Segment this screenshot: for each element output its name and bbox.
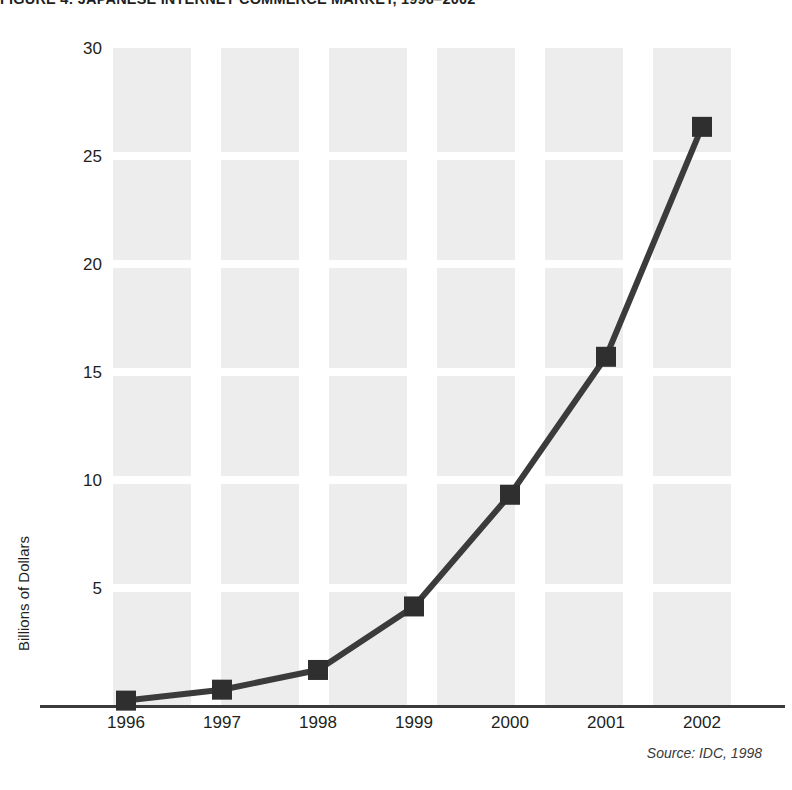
- y-axis-ticks: 30 25 20 15 10 5: [50, 0, 102, 790]
- y-tick-label: 25: [58, 148, 102, 165]
- y-axis-title: Billions of Dollars: [15, 509, 32, 679]
- column-band: [545, 48, 623, 705]
- plot-area: [113, 48, 762, 705]
- x-tick-label: 1996: [71, 713, 181, 733]
- source-note: Source: IDC, 1998: [647, 745, 762, 761]
- column-band: [653, 48, 731, 705]
- x-tick-label: 1999: [359, 713, 469, 733]
- y-tick-label: 20: [58, 256, 102, 273]
- x-tick-label: 2000: [455, 713, 565, 733]
- column-band: [113, 48, 191, 705]
- gridline-gap: [113, 260, 762, 268]
- x-tick-label: 2002: [647, 713, 757, 733]
- column-band: [437, 48, 515, 705]
- x-tick-label: 1997: [167, 713, 277, 733]
- gridline-gap: [113, 476, 762, 484]
- gridline-gap: [113, 584, 762, 592]
- y-tick-label: 10: [58, 472, 102, 489]
- y-tick-label: 15: [58, 364, 102, 381]
- page-title: FIGURE 4: JAPANESE INTERNET COMMERCE MAR…: [0, 0, 792, 9]
- y-tick-label: 5: [58, 580, 102, 597]
- gridline-gap: [113, 368, 762, 376]
- x-axis-line: [40, 705, 785, 708]
- column-band: [329, 48, 407, 705]
- x-tick-label: 2001: [551, 713, 661, 733]
- column-band: [221, 48, 299, 705]
- x-tick-label: 1998: [263, 713, 373, 733]
- gridline-gap: [113, 152, 762, 160]
- y-tick-label: 30: [58, 40, 102, 57]
